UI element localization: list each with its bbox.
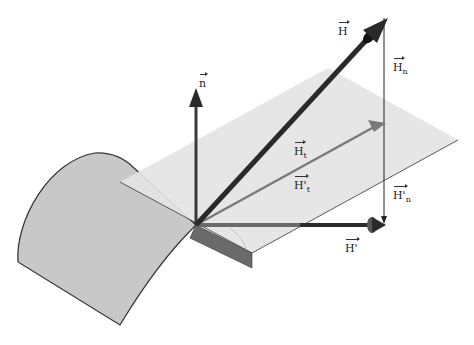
label-hpn-text: H' (393, 190, 406, 201)
normal-arrowhead-icon (189, 88, 203, 107)
label-h-text: H (338, 26, 348, 37)
label-ht: Ht (294, 146, 307, 160)
label-hn-text: H (393, 62, 403, 73)
label-hn-sub: n (403, 67, 408, 76)
label-hpt-text: H' (294, 180, 307, 191)
label-hpn: H'n (393, 190, 411, 204)
label-ht-sub: t (304, 151, 307, 160)
label-ht-text: H (294, 146, 304, 157)
label-h: H (338, 26, 348, 37)
label-hp: H' (345, 243, 358, 254)
label-hpt-sub: t (307, 185, 310, 194)
label-hpt: H't (294, 180, 310, 194)
label-hn: Hn (393, 62, 408, 76)
label-hp-text: H' (345, 243, 358, 254)
label-n: n (199, 78, 206, 89)
diagram-canvas (0, 0, 474, 345)
label-n-text: n (199, 78, 206, 89)
label-hpn-sub: n (406, 195, 411, 204)
